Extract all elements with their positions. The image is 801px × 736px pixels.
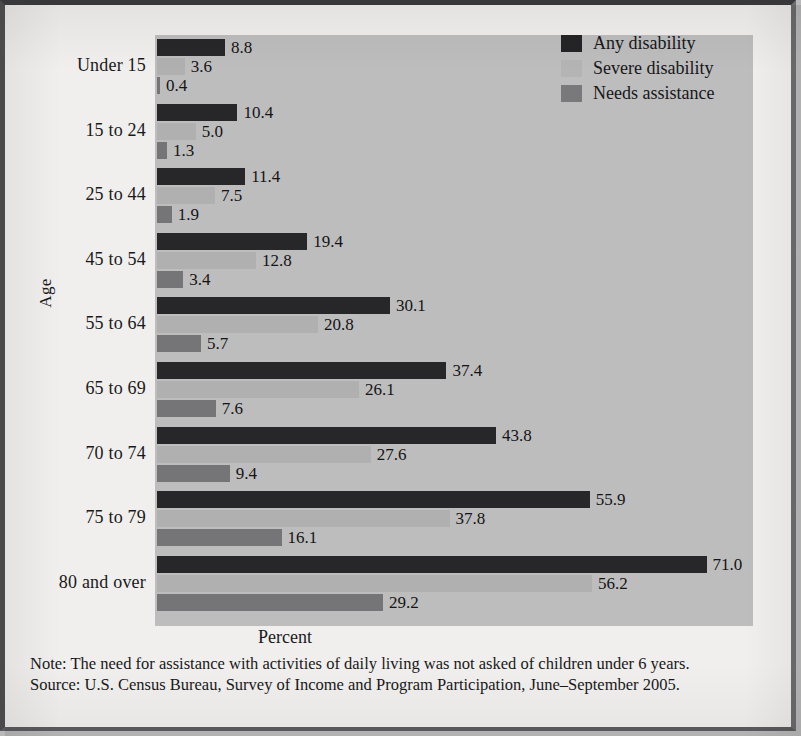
bar-group: 55 to 6430.120.85.7 [5, 295, 792, 359]
x-axis-title: Percent [5, 627, 565, 648]
bar-row: 56.2 [157, 575, 797, 592]
bar [157, 206, 172, 223]
bar-chart-figure: Age Under 158.83.60.415 to 2410.45.01.32… [5, 5, 792, 645]
bar-row: 1.9 [157, 206, 797, 223]
bar-value-label: 5.7 [201, 334, 228, 354]
note-line: Note: The need for assistance with activ… [30, 653, 780, 674]
bar-value-label: 5.0 [196, 122, 223, 142]
category-label: 25 to 44 [5, 184, 146, 205]
bar-value-label: 3.6 [185, 57, 212, 77]
bar-row: 3.4 [157, 271, 797, 288]
bar [157, 297, 390, 314]
legend-item: Needs assistance [561, 81, 751, 106]
bar-row: 7.6 [157, 400, 797, 417]
bar-value-label: 9.4 [230, 464, 257, 484]
bar [157, 381, 359, 398]
bar [157, 316, 318, 333]
bar-group: 75 to 7955.937.816.1 [5, 489, 792, 553]
bar [157, 575, 592, 592]
bar-value-label: 20.8 [318, 315, 354, 335]
bar-value-label: 26.1 [359, 380, 395, 400]
bar-row: 5.7 [157, 335, 797, 352]
bar-value-label: 55.9 [590, 490, 626, 510]
category-label: 45 to 54 [5, 249, 146, 270]
bar [157, 529, 282, 546]
bar [157, 510, 450, 527]
bar-row: 12.8 [157, 252, 797, 269]
bar [157, 123, 196, 140]
bar-row: 5.0 [157, 123, 797, 140]
bar-value-label: 56.2 [592, 574, 628, 594]
category-label: Under 15 [5, 55, 146, 76]
bar [157, 233, 307, 250]
bar-value-label: 19.4 [307, 232, 343, 252]
bar-row: 30.1 [157, 297, 797, 314]
figure-notes: Note: The need for assistance with activ… [30, 653, 780, 695]
bar [157, 427, 496, 444]
bar-row: 26.1 [157, 381, 797, 398]
bar [157, 168, 245, 185]
bar-value-label: 71.0 [707, 555, 743, 575]
legend-label: Needs assistance [593, 83, 714, 104]
bar [157, 335, 201, 352]
bar-row: 9.4 [157, 465, 797, 482]
legend-swatch-icon [561, 60, 582, 77]
bar-value-label: 3.4 [183, 270, 210, 290]
bar [157, 142, 167, 159]
category-label: 65 to 69 [5, 378, 146, 399]
bar [157, 594, 383, 611]
bar-value-label: 27.6 [371, 445, 407, 465]
bar [157, 58, 185, 75]
bar [157, 465, 230, 482]
bar-row: 37.8 [157, 510, 797, 527]
bar [157, 187, 215, 204]
bar-value-label: 1.9 [172, 205, 199, 225]
bar-value-label: 0.4 [160, 76, 187, 96]
bar-value-label: 29.2 [383, 593, 419, 613]
bar-value-label: 7.5 [215, 186, 242, 206]
bar [157, 556, 707, 573]
bar-value-label: 8.8 [225, 38, 252, 58]
bar-value-label: 37.4 [446, 361, 482, 381]
bar [157, 39, 225, 56]
bar-group: 65 to 6937.426.17.6 [5, 360, 792, 424]
bar [157, 446, 371, 463]
bar-row: 7.5 [157, 187, 797, 204]
bar-value-label: 12.8 [256, 251, 292, 271]
bar [157, 104, 237, 121]
legend-swatch-icon [561, 35, 582, 52]
bar-row: 1.3 [157, 142, 797, 159]
bar-value-label: 16.1 [282, 528, 318, 548]
bar-row: 71.0 [157, 556, 797, 573]
bar-row: 29.2 [157, 594, 797, 611]
bar-group: 45 to 5419.412.83.4 [5, 231, 792, 295]
bar-group: 15 to 2410.45.01.3 [5, 102, 792, 166]
legend-label: Severe disability [593, 58, 713, 79]
bar-row: 11.4 [157, 168, 797, 185]
chart-legend: Any disabilitySevere disabilityNeeds ass… [561, 31, 751, 106]
bar [157, 271, 183, 288]
bar-value-label: 7.6 [216, 399, 243, 419]
bar [157, 491, 590, 508]
bar-value-label: 1.3 [167, 141, 194, 161]
category-label: 75 to 79 [5, 507, 146, 528]
bar-row: 43.8 [157, 427, 797, 444]
legend-label: Any disability [593, 33, 696, 54]
bar [157, 362, 446, 379]
bar-value-label: 10.4 [237, 103, 273, 123]
bar-row: 10.4 [157, 104, 797, 121]
category-label: 70 to 74 [5, 443, 146, 464]
category-label: 55 to 64 [5, 313, 146, 334]
bar-row: 19.4 [157, 233, 797, 250]
category-label: 80 and over [5, 572, 146, 593]
bar-value-label: 30.1 [390, 296, 426, 316]
bar-group: 70 to 7443.827.69.4 [5, 425, 792, 489]
bar-value-label: 37.8 [450, 509, 486, 529]
bar-value-label: 11.4 [245, 167, 280, 187]
bar [157, 400, 216, 417]
bar-row: 20.8 [157, 316, 797, 333]
bar-row: 27.6 [157, 446, 797, 463]
category-label: 15 to 24 [5, 120, 146, 141]
legend-item: Severe disability [561, 56, 751, 81]
